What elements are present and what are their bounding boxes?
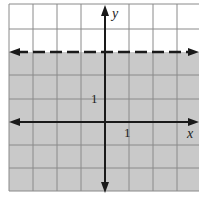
y-axis-label: y bbox=[110, 6, 119, 21]
y-axis-arrow-up-icon bbox=[101, 5, 109, 16]
coordinate-plane: y x 1 1 bbox=[0, 0, 199, 204]
x-tick-label: 1 bbox=[124, 125, 131, 140]
y-tick-label: 1 bbox=[91, 91, 98, 106]
x-axis-label: x bbox=[186, 126, 194, 141]
